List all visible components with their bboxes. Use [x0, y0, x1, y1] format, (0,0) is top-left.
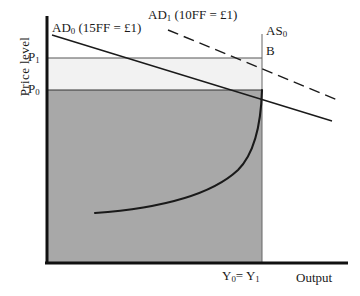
ad-as-diagram: Price level Output P1 P0 Y0= Y1 AD0 (15F… [0, 0, 360, 296]
point-label-b: B [266, 44, 275, 57]
x-axis-label: Output [296, 271, 332, 284]
curve-label-ad0-text: AD [52, 20, 71, 35]
curve-label-ad1: AD1 (10FF = £1) [148, 8, 237, 23]
y-axis-label: Price level [18, 21, 31, 113]
curve-label-ad1-text: AD [148, 7, 167, 22]
x-tick-y0-y1: Y0= Y1 [222, 269, 260, 284]
curve-label-as0-text: AS [266, 23, 283, 38]
curve-label-as0-sub: 0 [283, 29, 287, 39]
curve-label-ad1-note: (10FF = £1) [174, 7, 237, 22]
x-tick-y1-sub: 1 [255, 274, 259, 284]
x-tick-eq-text: = Y [236, 268, 256, 283]
diagram-canvas [0, 0, 360, 296]
curve-label-ad0-sub: 0 [71, 26, 75, 36]
curve-label-ad1-sub: 1 [167, 13, 171, 23]
y-tick-p1-sub: 1 [35, 55, 39, 65]
y-tick-p1: P1 [28, 50, 40, 65]
region-upper-price-band [48, 58, 262, 90]
y-tick-p0-sub: 0 [35, 87, 39, 97]
curve-label-ad0: AD0 (15FF = £1) [52, 21, 141, 36]
curve-label-ad0-note: (15FF = £1) [78, 20, 141, 35]
curve-label-as0: AS0 [266, 24, 287, 39]
y-tick-p0: P0 [28, 82, 40, 97]
x-tick-y0-text: Y [222, 268, 231, 283]
